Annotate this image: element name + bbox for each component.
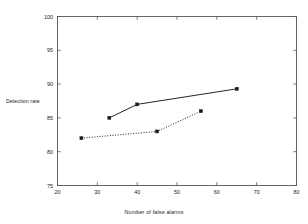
x-tick-label: 40 — [134, 189, 140, 195]
y-tick-label: 75 — [47, 183, 53, 189]
y-tick-label: 85 — [47, 115, 53, 121]
data-point-marker — [80, 137, 83, 140]
data-point-marker — [199, 110, 202, 113]
x-tick-label: 70 — [254, 189, 260, 195]
data-point-marker — [156, 130, 159, 133]
y-axis-title: Detection rate — [6, 98, 54, 104]
series-line-solid-series — [109, 89, 236, 118]
data-point-marker — [235, 87, 238, 90]
figure-canvas: 203040506070807580859095100 Detection ra… — [0, 0, 308, 224]
x-axis-title: Number of false alarms — [0, 209, 308, 215]
y-tick-label: 100 — [44, 14, 53, 20]
plot-box — [58, 17, 297, 186]
x-tick-label: 30 — [94, 189, 100, 195]
x-tick-label: 20 — [55, 189, 61, 195]
x-tick-label: 80 — [294, 189, 300, 195]
x-tick-label: 60 — [214, 189, 220, 195]
y-tick-label: 90 — [47, 81, 53, 87]
data-point-marker — [108, 116, 111, 119]
data-point-marker — [136, 103, 139, 106]
y-tick-label: 95 — [47, 47, 53, 53]
x-tick-label: 50 — [174, 189, 180, 195]
y-tick-label: 80 — [47, 149, 53, 155]
series-line-dotted-series — [81, 111, 200, 138]
plot-svg: 203040506070807580859095100 — [0, 0, 308, 224]
